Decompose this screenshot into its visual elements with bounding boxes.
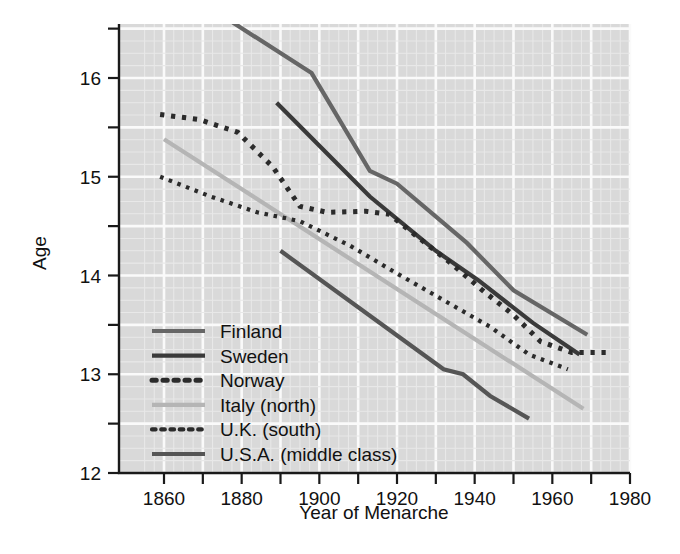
legend-label: Finland (220, 321, 282, 342)
legend-label: Norway (220, 370, 285, 391)
y-axis-title: Age (29, 236, 50, 270)
x-tick-label: 1940 (454, 488, 496, 509)
legend-label: U.S.A. (middle class) (220, 444, 397, 465)
legend-label: Italy (north) (220, 395, 316, 416)
y-tick-label: 12 (80, 463, 101, 484)
y-axis-ticks (108, 29, 119, 473)
x-axis-title: Year of Menarche (299, 502, 448, 523)
x-tick-label: 1960 (531, 488, 573, 509)
y-tick-label: 14 (80, 266, 102, 287)
x-tick-label: 1860 (143, 488, 185, 509)
legend-label: U.K. (south) (220, 419, 321, 440)
y-axis-tick-labels: 1213141516 (80, 68, 102, 484)
y-tick-label: 15 (80, 167, 101, 188)
y-tick-label: 16 (80, 68, 101, 89)
x-tick-label: 1880 (221, 488, 263, 509)
x-axis-ticks (164, 473, 630, 484)
legend-label: Sweden (220, 346, 289, 367)
x-tick-label: 1980 (609, 488, 651, 509)
menarche-age-chart: 1860188019001920194019601980 1213141516 … (0, 0, 680, 554)
y-tick-label: 13 (80, 364, 101, 385)
